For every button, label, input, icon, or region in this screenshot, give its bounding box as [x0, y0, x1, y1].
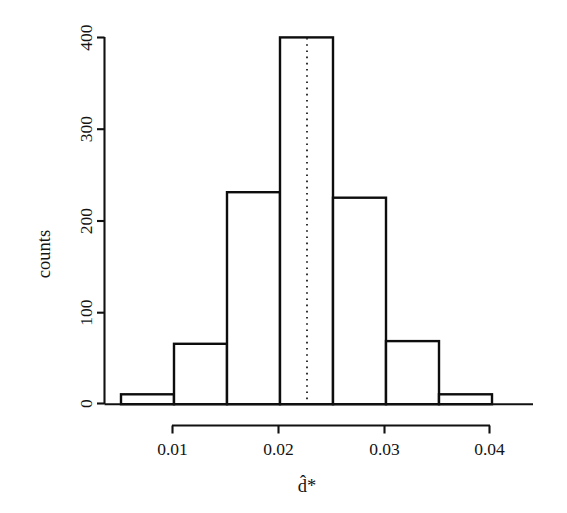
y-tick-label-400: 400: [76, 24, 96, 51]
x-tick-label-0.02: 0.02: [263, 439, 294, 459]
histogram-bar-7: [439, 394, 492, 404]
histogram-figure: 400 300 200 100 0 counts: [0, 0, 567, 513]
y-tick-label-100: 100: [76, 299, 96, 326]
y-tick-label-300: 300: [76, 116, 96, 143]
x-axis-title: d̂*: [298, 475, 317, 496]
histogram-bar-5: [333, 198, 386, 405]
x-tick-label-0.01: 0.01: [157, 439, 188, 459]
histogram-bar-2: [174, 344, 227, 404]
plot-canvas: 400 300 200 100 0 counts: [0, 0, 567, 513]
y-tick-label-0: 0: [76, 399, 96, 408]
histogram-bar-3: [227, 192, 280, 404]
y-axis-title: counts: [34, 230, 54, 278]
histogram-bar-6: [386, 341, 439, 404]
x-tick-label-0.04: 0.04: [474, 439, 505, 459]
y-tick-label-200: 200: [76, 208, 96, 235]
x-tick-label-0.03: 0.03: [369, 439, 400, 459]
histogram-bar-1: [121, 394, 174, 404]
